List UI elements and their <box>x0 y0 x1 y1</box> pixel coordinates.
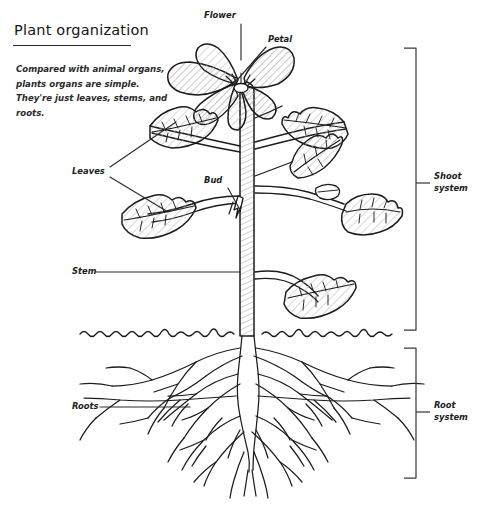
system-brackets <box>404 48 430 478</box>
label-stem: Stem <box>72 266 96 277</box>
label-roots: Roots <box>72 401 99 412</box>
label-flower: Flower <box>204 10 236 21</box>
bracket-shoot <box>404 48 416 330</box>
leaf-upper-left <box>150 107 218 148</box>
label-shoot-system: Shoot system <box>434 171 468 194</box>
root-system-line-1: Root <box>434 400 468 412</box>
leaf-mid-right-lower <box>342 194 403 235</box>
leaf-mid-left <box>122 195 196 239</box>
root-system-line-2: system <box>434 412 468 424</box>
label-petal: Petal <box>268 34 292 45</box>
shoot-system-line-2: system <box>434 183 468 195</box>
roots-shape <box>80 336 424 498</box>
leaf-small-right <box>316 184 340 199</box>
label-root-system: Root system <box>434 400 468 423</box>
label-bud: Bud <box>204 175 222 186</box>
shoot-system-line-1: Shoot <box>434 171 468 183</box>
soil-line <box>80 329 392 337</box>
plant-illustration <box>0 0 482 510</box>
diagram-canvas: Plant organization Compared with animal … <box>0 0 482 510</box>
leaf-bottom-right <box>284 275 356 319</box>
label-leaves: Leaves <box>72 166 105 177</box>
bracket-root <box>404 348 416 478</box>
